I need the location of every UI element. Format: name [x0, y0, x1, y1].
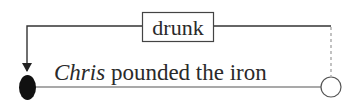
label-text: drunk: [152, 15, 203, 40]
event-diagram: drunk Chris pounded the iron: [0, 0, 352, 103]
filled-node-icon: [19, 75, 36, 100]
sentence-predicate: pounded the iron: [105, 60, 267, 85]
down-arrow-icon: [22, 63, 32, 72]
sentence-text: Chris pounded the iron: [54, 60, 267, 85]
open-node-icon: [321, 77, 341, 97]
sentence-subject: Chris: [54, 60, 105, 85]
